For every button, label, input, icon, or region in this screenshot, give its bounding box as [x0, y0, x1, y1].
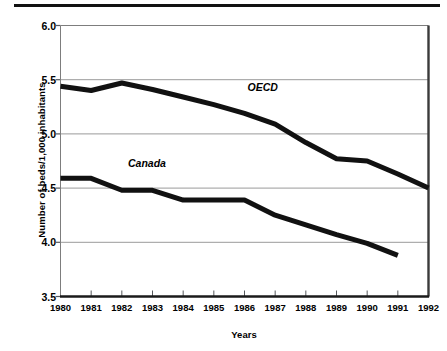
x-axis-title: Years	[60, 329, 428, 340]
x-tick-label: 1992	[409, 302, 447, 314]
x-axis-tick-labels: 1980198119821983198419851986198719881989…	[0, 302, 447, 318]
series-label-canada: Canada	[128, 157, 166, 169]
series-line-canada	[61, 178, 398, 255]
chart-figure: Number of beds/1,000 inhabitants 3.54.04…	[0, 0, 447, 351]
plot-frame	[60, 26, 429, 297]
y-axis-ticks	[56, 26, 61, 297]
plot-area	[0, 0, 447, 351]
series-lines	[61, 83, 429, 255]
series-label-oecd: OECD	[248, 81, 278, 93]
series-line-oecd	[61, 83, 429, 188]
